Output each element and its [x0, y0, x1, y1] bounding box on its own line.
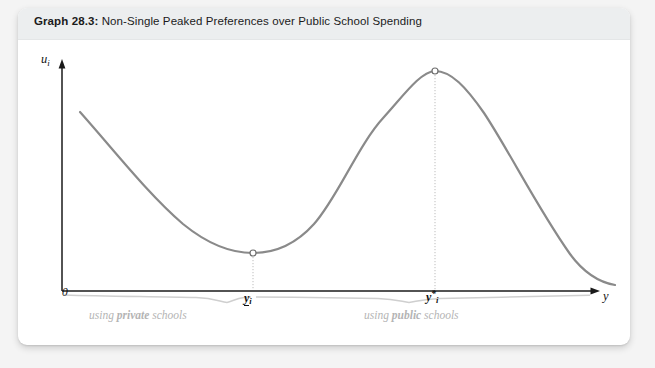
annotation-private-prefix: using	[89, 309, 117, 321]
annotation-public-schools: using public schools	[364, 309, 459, 321]
arrow-up-icon	[59, 59, 66, 69]
y-axis	[59, 59, 66, 291]
figure-caption: Graph 28.3: Non-Single Peaked Preference…	[34, 15, 422, 27]
tick-label-y-star-subscript: i	[436, 295, 438, 305]
curve-markers	[250, 68, 438, 256]
y-axis-label: ui	[41, 52, 50, 68]
annotation-private-emphasis: private	[117, 309, 150, 321]
marker-y-lower	[250, 250, 256, 256]
plot-area: ui y 0 yi y*i using private schools usin…	[18, 39, 630, 345]
figure-caption-title: Non-Single Peaked Preferences over Publi…	[98, 15, 422, 27]
marker-y-star	[432, 68, 438, 74]
bracket-private	[64, 295, 251, 302]
x-axis-label: y	[603, 289, 609, 304]
figure-card: Graph 28.3: Non-Single Peaked Preference…	[18, 8, 630, 345]
caption-band: Graph 28.3: Non-Single Peaked Preference…	[18, 8, 630, 40]
tick-label-y-lower-bound: yi	[244, 291, 252, 306]
utility-curve-plot	[18, 39, 630, 345]
y-axis-label-subscript: i	[47, 58, 50, 68]
origin-label: 0	[62, 286, 68, 298]
annotation-public-suffix: schools	[421, 309, 458, 321]
annotation-private-suffix: schools	[149, 309, 186, 321]
utility-curve	[80, 71, 615, 285]
tick-label-y-star: y*i	[426, 289, 438, 305]
tick-label-y-lower-subscript: i	[249, 296, 251, 306]
arrow-right-icon	[591, 288, 601, 295]
droplines	[253, 75, 435, 290]
annotation-public-prefix: using	[364, 309, 392, 321]
bracket-public	[256, 295, 590, 302]
x-axis	[62, 288, 600, 295]
annotation-public-emphasis: public	[392, 309, 421, 321]
region-brackets	[64, 295, 590, 303]
figure-caption-label: Graph 28.3:	[34, 15, 98, 27]
annotation-private-schools: using private schools	[89, 309, 187, 321]
